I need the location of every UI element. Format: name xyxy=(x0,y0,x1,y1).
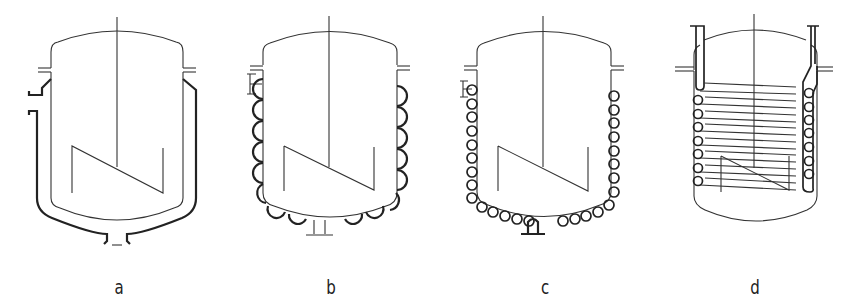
jacket-inlet xyxy=(29,79,51,95)
panel-label-b: b xyxy=(320,276,343,298)
half-pipe-coil-right xyxy=(390,86,407,210)
inner-wall xyxy=(477,70,611,217)
vessel-d xyxy=(675,14,833,221)
half-pipe-coil-left xyxy=(253,79,266,203)
panel-label-c: c xyxy=(534,276,557,298)
inner-wall xyxy=(263,70,397,217)
vessel-b xyxy=(247,16,410,235)
panel-label-d: d xyxy=(744,276,767,298)
vessel-head xyxy=(263,32,397,66)
vessel-head xyxy=(477,32,611,67)
internal-coil-left-loops xyxy=(694,96,703,186)
reactor-diagram xyxy=(0,0,853,307)
tube-coil-bottom xyxy=(477,200,614,226)
bottom-outlet xyxy=(306,220,333,235)
jacket-right xyxy=(127,79,196,244)
tube-coil-left xyxy=(467,85,477,203)
panel-label-a: a xyxy=(108,276,131,298)
jacket-left xyxy=(29,111,107,244)
coil-inlet-tube xyxy=(690,26,704,90)
vessel-head xyxy=(704,30,806,40)
internal-coil-windings xyxy=(700,83,796,190)
vessel-a xyxy=(29,17,196,245)
vessel-c xyxy=(460,16,624,234)
